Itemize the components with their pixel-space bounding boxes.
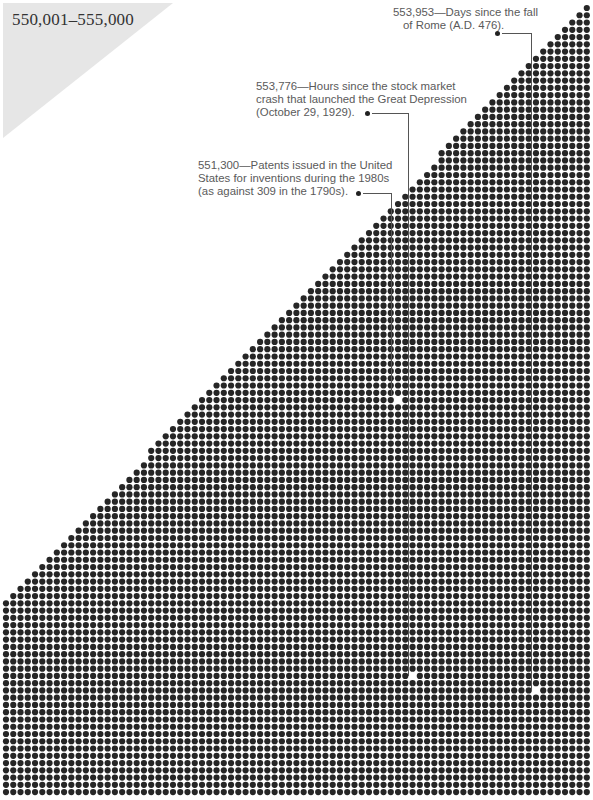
leader-line-hours-crash-vertical xyxy=(408,113,409,676)
leader-line-days-rome xyxy=(502,33,532,34)
annotation-patents-line1: 551,300—Patents issued in the United xyxy=(198,159,392,172)
leader-line-days-rome-vertical xyxy=(531,33,532,691)
annotation-hours-crash: 553,776—Hours since the stock market cra… xyxy=(256,80,467,119)
annotation-hours-crash-line1: 553,776—Hours since the stock market xyxy=(256,80,467,93)
annotation-days-rome-line1: 553,953—Days since the fall xyxy=(393,6,538,19)
annotation-patents-line2: States for inventions during the 1980s xyxy=(198,172,392,185)
annotation-hours-crash-line2: crash that launched the Great Depression xyxy=(256,93,467,106)
annotation-hours-crash-line3: (October 29, 1929). xyxy=(256,106,467,119)
annotation-days-rome-line2: of Rome (A.D. 476). xyxy=(403,19,504,31)
annotation-days-rome-marker xyxy=(495,31,500,36)
annotation-days-rome: 553,953—Days since the fall of Rome (A.D… xyxy=(393,6,538,32)
annotation-hours-crash-marker xyxy=(365,111,370,116)
annotation-patents-line3: (as against 309 in the 1790s). xyxy=(198,185,392,198)
dot-grid xyxy=(0,0,593,800)
leader-line-hours-crash xyxy=(372,113,409,114)
annotation-patents-marker xyxy=(356,191,361,196)
leader-line-patents-vertical xyxy=(391,193,392,396)
leader-line-patents xyxy=(363,193,392,194)
